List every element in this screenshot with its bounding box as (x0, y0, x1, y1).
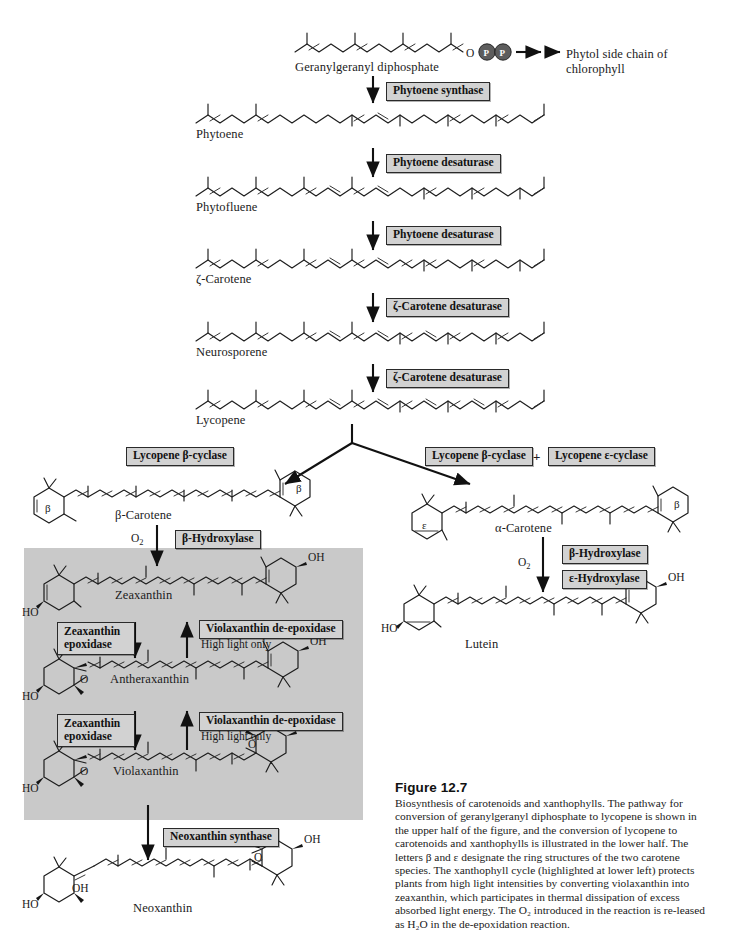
svg-text:P: P (484, 48, 490, 58)
svg-text:β: β (674, 498, 680, 510)
enzyme-label: Lycopene β-cyclase (126, 447, 234, 467)
enzyme-phytoene-synthase[interactable]: Phytoene synthase (386, 80, 490, 101)
enzyme-label: Phytoene desaturase (386, 226, 501, 246)
enzyme-label: Phytoene desaturase (386, 154, 501, 174)
cyclase-plus-sign: + (533, 449, 540, 465)
lycopene-structure (196, 390, 544, 412)
o2-label-right: O2 (518, 556, 531, 571)
svg-text:OH: OH (72, 882, 89, 894)
note-high-light-only-1: High light only (201, 638, 271, 650)
enzyme-label: Lycopene ε-cyclase (548, 447, 655, 467)
enzyme-violaxanthin-de-epoxidase-1[interactable]: Violaxanthin de-epoxidase (199, 618, 343, 639)
enzyme-label: Lycopene β-cyclase (425, 447, 533, 467)
enzyme-phytoene-desaturase-1[interactable]: Phytoene desaturase (386, 152, 501, 173)
svg-text:β: β (45, 502, 51, 514)
svg-text:O: O (466, 47, 474, 59)
note-high-light-only-2: High light only (201, 730, 271, 742)
svg-text:OH: OH (668, 571, 685, 583)
enzyme-label: ε-Hydroxylase (562, 570, 647, 590)
ggpp-structure: O P P (295, 33, 560, 60)
molecule-label-violaxanthin: Violaxanthin (113, 764, 179, 779)
product-phytol-line1: Phytol side chain of (566, 47, 668, 62)
o2-subscript: 2 (526, 562, 530, 571)
molecule-label-ggpp: Geranylgeranyl diphosphate (295, 60, 439, 75)
figure-container: O P P (0, 0, 730, 950)
molecule-label-neoxanthin: Neoxanthin (133, 901, 192, 916)
enzyme-neoxanthin-synthase[interactable]: Neoxanthin synthase (163, 826, 279, 847)
svg-text:HO: HO (22, 898, 39, 910)
molecule-label-alpha-carotene: α-Carotene (495, 521, 552, 536)
molecule-label-phytoene: Phytoene (196, 127, 243, 142)
xanthophyll-cycle-panel (24, 548, 363, 820)
enzyme-label: ζ-Carotene desaturase (386, 369, 509, 389)
enzyme-label: Zeaxanthin epoxidase (57, 714, 135, 747)
molecule-label-zeta-carotene: ζ-Carotene (196, 272, 251, 287)
enzyme-lycopene-beta-cyclase-left[interactable]: Lycopene β-cyclase (126, 445, 234, 466)
o2-subscript: 2 (139, 538, 143, 547)
enzyme-label: Violaxanthin de-epoxidase (199, 712, 343, 732)
zeta-carotene-structure (196, 249, 544, 271)
molecule-label-antheraxanthin: Antheraxanthin (110, 672, 189, 687)
enzyme-label: Zeaxanthin epoxidase (57, 622, 135, 655)
enzyme-label: β-Hydroxylase (562, 545, 648, 565)
enzyme-label: Phytoene synthase (386, 82, 490, 102)
enzyme-lycopene-beta-cyclase-right[interactable]: Lycopene β-cyclase (425, 445, 533, 466)
o2-label-left: O2 (131, 532, 144, 547)
enzyme-epsilon-hydroxylase[interactable]: ε-Hydroxylase (562, 568, 647, 589)
neurosporene-structure (196, 322, 544, 344)
enzyme-lycopene-epsilon-cyclase[interactable]: Lycopene ε-cyclase (548, 445, 655, 466)
molecule-label-phytofluene: Phytofluene (196, 200, 258, 215)
svg-text:OH: OH (304, 833, 321, 845)
figure-caption-text: Biosynthesis of carotenoids and xanthoph… (395, 797, 707, 931)
molecule-label-lutein: Lutein (465, 637, 498, 652)
enzyme-beta-hydroxylase-right[interactable]: β-Hydroxylase (562, 543, 648, 564)
enzyme-label: Neoxanthin synthase (163, 828, 279, 848)
phytoene-structure (196, 104, 544, 126)
enzyme-zeaxanthin-epoxidase-1[interactable]: Zeaxanthin epoxidase (57, 622, 129, 655)
enzyme-label: ζ-Carotene desaturase (386, 298, 509, 318)
phytofluene-structure (196, 177, 544, 199)
molecule-label-neurosporene: Neurosporene (196, 345, 267, 360)
svg-text:ε: ε (422, 519, 427, 531)
enzyme-violaxanthin-de-epoxidase-2[interactable]: Violaxanthin de-epoxidase (199, 710, 343, 731)
product-phytol-line2: chlorophyll (566, 62, 625, 77)
svg-text:P: P (500, 48, 506, 58)
molecule-label-beta-carotene: β-Carotene (115, 508, 172, 523)
svg-text:β: β (296, 482, 302, 494)
enzyme-phytoene-desaturase-2[interactable]: Phytoene desaturase (386, 224, 501, 245)
figure-caption: Figure 12.7 Biosynthesis of carotenoids … (395, 780, 707, 931)
enzyme-zeaxanthin-epoxidase-2[interactable]: Zeaxanthin epoxidase (57, 714, 129, 747)
enzyme-label: Violaxanthin de-epoxidase (199, 620, 343, 640)
molecule-label-zeaxanthin: Zeaxanthin (115, 588, 172, 603)
figure-number: Figure 12.7 (395, 780, 707, 795)
svg-text:O: O (254, 851, 262, 863)
enzyme-zeta-carotene-desaturase-1[interactable]: ζ-Carotene desaturase (386, 296, 509, 317)
enzyme-zeta-carotene-desaturase-2[interactable]: ζ-Carotene desaturase (386, 367, 509, 388)
enzyme-beta-hydroxylase-left[interactable]: β-Hydroxylase (175, 528, 261, 549)
molecule-label-lycopene: Lycopene (196, 413, 245, 428)
enzyme-label: β-Hydroxylase (175, 530, 261, 550)
beta-carotene-structure: β β (34, 470, 310, 523)
svg-text:HO: HO (381, 622, 398, 634)
